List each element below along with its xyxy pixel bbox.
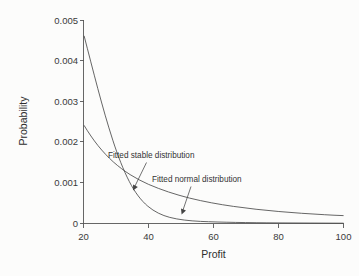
x-axis-title: Profit bbox=[201, 248, 226, 260]
probability-profit-line-chart: 0.005 0.004 0.003 0.002 0.001 0 20 40 60… bbox=[0, 0, 359, 276]
y-tick-label-0: 0 bbox=[73, 218, 78, 229]
y-tick-label-0.001: 0.001 bbox=[54, 177, 78, 188]
x-tick-label-40: 40 bbox=[143, 231, 154, 242]
y-tick-label-0.005: 0.005 bbox=[54, 15, 78, 26]
curve-fitted-stable-distribution bbox=[84, 126, 343, 216]
x-tick-label-60: 60 bbox=[208, 231, 219, 242]
curve-fitted-normal-distribution bbox=[84, 36, 343, 223]
x-tick-label-20: 20 bbox=[78, 231, 89, 242]
x-tick-label-100: 100 bbox=[336, 231, 352, 242]
annotation-fitted-stable-distribution-label: Fitted stable distribution bbox=[108, 151, 195, 160]
x-tick-label-80: 80 bbox=[273, 231, 284, 242]
y-tick-label-0.002: 0.002 bbox=[54, 136, 78, 147]
y-tick-label-0.004: 0.004 bbox=[54, 55, 78, 66]
chart-figure: 0.005 0.004 0.003 0.002 0.001 0 20 40 60… bbox=[0, 0, 359, 276]
y-axis-title: Probability bbox=[17, 96, 29, 146]
annotation-fitted-normal-distribution-label: Fitted normal distribution bbox=[152, 175, 242, 184]
y-tick-label-0.003: 0.003 bbox=[54, 96, 78, 107]
